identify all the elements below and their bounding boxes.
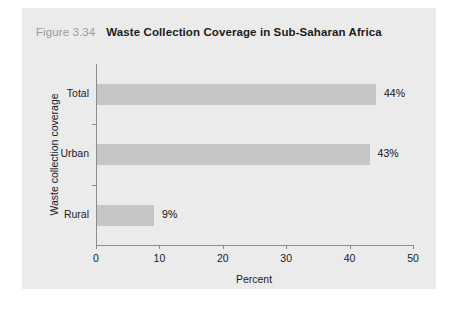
x-axis-tick-label: 40: [344, 252, 356, 264]
x-axis-tick-label: 50: [407, 252, 419, 264]
figure-header: Figure 3.34Waste Collection Coverage in …: [36, 22, 382, 40]
x-axis-tick: [223, 245, 224, 249]
figure-number: Figure 3.34: [36, 26, 95, 38]
x-axis-tick-label: 20: [217, 252, 229, 264]
x-axis-tick: [159, 245, 160, 249]
category-label-total: Total: [67, 87, 89, 99]
category-label-urban: Urban: [60, 147, 89, 159]
category-label-rural: Rural: [64, 208, 89, 220]
bar-total: [97, 84, 376, 105]
x-axis-tick: [413, 245, 414, 249]
bar-value-urban: 43%: [378, 147, 399, 159]
x-axis-tick: [96, 245, 97, 249]
x-axis-tick: [350, 245, 351, 249]
x-axis-title: Percent: [236, 273, 272, 285]
bar-rural: [97, 205, 154, 226]
x-axis-tick: [286, 245, 287, 249]
bar-value-rural: 9%: [162, 208, 177, 220]
plot-area: Total 44% Urban 43% Rural 9% 0 10 20 30 …: [96, 64, 413, 245]
bar-urban: [97, 144, 370, 165]
x-axis-tick-label: 0: [93, 252, 99, 264]
y-axis-tick: [92, 185, 96, 186]
bar-value-total: 44%: [384, 87, 405, 99]
x-axis-line: [96, 245, 414, 246]
y-axis-tick: [92, 124, 96, 125]
figure-panel: Figure 3.34Waste Collection Coverage in …: [22, 8, 436, 289]
x-axis-tick-label: 10: [154, 252, 166, 264]
x-axis-tick-label: 30: [280, 252, 292, 264]
figure-title: Waste Collection Coverage in Sub-Saharan…: [106, 26, 381, 38]
